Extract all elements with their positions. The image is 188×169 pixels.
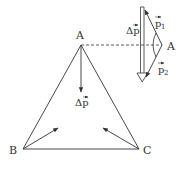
label-delta-p-vector: Δp: [126, 25, 140, 36]
svg-text:Δp: Δp: [75, 97, 89, 108]
label-vertex-a: A: [75, 29, 85, 42]
svg-text:1: 1: [161, 23, 165, 31]
label-p1: p 1: [155, 17, 165, 31]
svg-text:Δp: Δp: [126, 25, 140, 36]
label-vector-vertex-a: A: [166, 40, 176, 53]
label-p2: p 2: [158, 63, 168, 77]
momentum-diagram: A B C Δp A Δp p 1 p 2: [0, 0, 188, 169]
label-vertex-b: B: [9, 144, 17, 157]
momentum-arrow-b: [23, 128, 58, 149]
svg-text:2: 2: [164, 69, 168, 77]
label-delta-p-main: Δp: [75, 97, 89, 108]
label-vertex-c: C: [143, 144, 151, 157]
